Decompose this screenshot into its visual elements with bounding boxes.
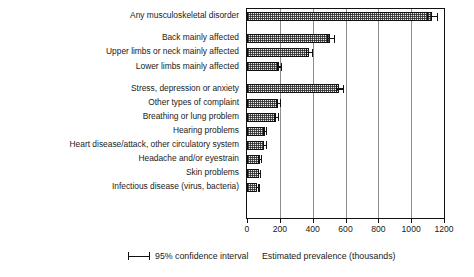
category-label: Hearing problems bbox=[173, 126, 239, 135]
x-axis-title: Estimated prevalence (thousands) bbox=[262, 251, 396, 261]
bar bbox=[247, 99, 278, 108]
x-tick-label: 600 bbox=[338, 224, 352, 235]
bar bbox=[247, 84, 339, 93]
error-bar-cap-low bbox=[256, 184, 257, 192]
error-bar-cap-low bbox=[276, 99, 277, 107]
x-tick-600 bbox=[346, 219, 347, 223]
error-bar-cap-low bbox=[277, 63, 278, 71]
category-label: Skin problems bbox=[186, 168, 239, 177]
bar-row bbox=[247, 84, 444, 93]
bar-row bbox=[247, 34, 444, 43]
x-tick-label: 400 bbox=[305, 224, 319, 235]
bar-row bbox=[247, 127, 444, 136]
error-bar-cap-low bbox=[263, 141, 264, 149]
bar-row bbox=[247, 169, 444, 178]
error-bar-cap-high bbox=[278, 113, 279, 121]
category-label: Upper limbs or neck mainly affected bbox=[106, 47, 239, 56]
error-bar-cap-high bbox=[266, 141, 267, 149]
x-tick-400 bbox=[313, 219, 314, 223]
plot-area bbox=[246, 8, 445, 219]
category-label: Stress, depression or anxiety bbox=[131, 84, 239, 93]
error-bar-cap-high bbox=[258, 184, 259, 192]
chart-container: Any musculoskeletal disorderBack mainly … bbox=[0, 0, 474, 277]
x-tick-label: 1000 bbox=[402, 224, 421, 235]
error-bar-cap-high bbox=[312, 49, 313, 57]
bar bbox=[247, 141, 264, 150]
error-bar-cap-low bbox=[258, 170, 259, 178]
category-label: Breathing or lung problem bbox=[143, 112, 239, 121]
bar-row bbox=[247, 62, 444, 71]
x-axis-tick-labels: 020040060080010001200 bbox=[246, 224, 445, 238]
x-tick-800 bbox=[378, 219, 379, 223]
category-label: Headache and/or eyestrain bbox=[138, 154, 239, 163]
bar bbox=[247, 34, 330, 43]
bar-row bbox=[247, 48, 444, 57]
bar bbox=[247, 127, 265, 136]
bar bbox=[247, 12, 432, 21]
error-bar-cap-low bbox=[336, 85, 337, 93]
bar-row bbox=[247, 155, 444, 164]
x-tick-1000 bbox=[411, 219, 412, 223]
bar bbox=[247, 48, 309, 57]
x-tick-label: 1200 bbox=[434, 224, 453, 235]
error-bar-icon bbox=[128, 252, 150, 261]
error-bar-cap-low bbox=[263, 127, 264, 135]
error-bar-cap-low bbox=[274, 113, 275, 121]
error-bar-cap-high bbox=[266, 127, 267, 135]
error-bar-cap-high bbox=[260, 170, 261, 178]
category-label-axis: Any musculoskeletal disorderBack mainly … bbox=[0, 0, 243, 219]
category-label: Other types of complaint bbox=[148, 98, 239, 107]
error-bar-cap-high bbox=[280, 99, 281, 107]
legend-label: 95% confidence interval bbox=[155, 251, 248, 261]
error-bar-cap-low bbox=[327, 35, 328, 43]
x-tick-label: 200 bbox=[273, 224, 287, 235]
category-label: Infectious disease (virus, bacteria) bbox=[112, 182, 239, 191]
error-bar-cap-high bbox=[343, 85, 344, 93]
x-tick-0 bbox=[247, 219, 248, 223]
x-tick-label: 800 bbox=[371, 224, 385, 235]
bar-row bbox=[247, 12, 444, 21]
error-bar-cap-high bbox=[261, 155, 262, 163]
bar-row bbox=[247, 99, 444, 108]
error-bar-cap-low bbox=[306, 49, 307, 57]
bar-row bbox=[247, 141, 444, 150]
error-bar-cap-high bbox=[334, 35, 335, 43]
category-label: Lower limbs mainly affected bbox=[136, 62, 239, 71]
error-bar-cap-low bbox=[427, 13, 428, 21]
error-bar-cap-high bbox=[437, 13, 438, 21]
bar-row bbox=[247, 113, 444, 122]
category-label: Back mainly affected bbox=[162, 33, 239, 42]
legend: 95% confidence interval bbox=[128, 251, 248, 261]
bar bbox=[247, 113, 276, 122]
x-tick-1200 bbox=[444, 219, 445, 223]
x-tick-label: 0 bbox=[245, 224, 250, 235]
bar-row bbox=[247, 183, 444, 192]
error-bar bbox=[427, 16, 438, 17]
category-label: Heart disease/attack, other circulatory … bbox=[70, 140, 239, 149]
bar bbox=[247, 62, 279, 71]
error-bar-cap-low bbox=[258, 155, 259, 163]
x-tick-200 bbox=[280, 219, 281, 223]
category-label: Any musculoskeletal disorder bbox=[130, 11, 239, 20]
error-bar-cap-high bbox=[281, 63, 282, 71]
